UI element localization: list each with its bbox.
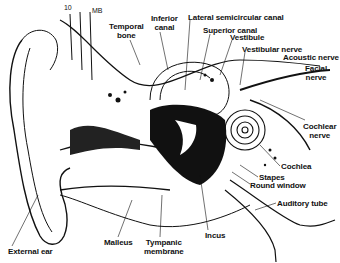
label-incus: Incus (205, 231, 225, 240)
label-vestibule: Vestibule (230, 33, 264, 42)
label-temporal-bone: Temporal bone (109, 22, 144, 40)
label-acoustic-nerve: Acoustic nerve (283, 53, 339, 62)
label-tympanic-membrane: Tympanic membrane (144, 238, 184, 256)
label-lateral-semicircular-canal: Lateral semicircular canal (188, 13, 284, 22)
label-cochlear-nerve: Cochlear nerve (303, 122, 336, 140)
ear-illustration (0, 0, 340, 263)
label-malleus: Malleus (104, 238, 133, 247)
corner-mark-number: 10 (64, 3, 72, 12)
label-facial-nerve: Facial nerve (305, 64, 327, 82)
label-external-ear: External ear (8, 247, 53, 256)
label-inferior-canal: Inferior canal (151, 14, 178, 32)
ear-anatomy-diagram: 10 MB Temporal bone Inferior canal Later… (0, 0, 340, 263)
pinna-outline (10, 40, 70, 244)
label-auditory-tube: Auditory tube (277, 199, 328, 208)
cochlea-spiral (225, 110, 265, 150)
label-cochlea: Cochlea (281, 162, 311, 171)
label-round-window: Round window (250, 181, 306, 190)
corner-mark-initials: MB (92, 6, 102, 15)
